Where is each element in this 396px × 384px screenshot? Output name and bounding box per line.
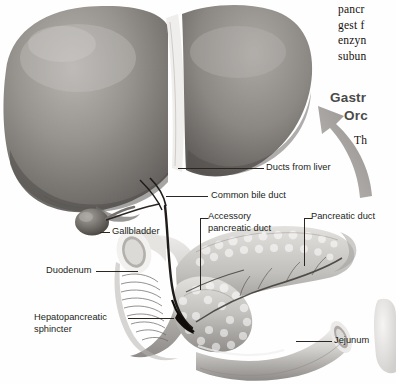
leader-pancreatic-duct-v <box>304 218 305 266</box>
label-hepato-line2: sphincter <box>34 324 72 334</box>
label-accessory-pancreatic-duct: Accessory pancreatic duct <box>208 211 271 234</box>
label-duodenum: Duodenum <box>46 265 91 277</box>
label-accessory-line1: Accessory <box>208 211 251 221</box>
body-text-line-1: pancr <box>338 2 365 18</box>
label-ducts-from-liver: Ducts from liver <box>266 162 331 174</box>
label-common-bile-duct: Common bile duct <box>211 190 286 202</box>
label-jejunum: Jejunum <box>334 335 369 347</box>
body-text-line-4: subun <box>338 49 366 65</box>
section-heading-line-1: Gastr <box>330 90 366 105</box>
label-hepato-line1: Hepatopancreatic <box>34 312 107 322</box>
label-pancreatic-duct: Pancreatic duct <box>311 211 375 223</box>
label-hepatopancreatic-sphincter: Hepatopancreatic sphincter <box>34 312 107 335</box>
figure-canvas: Ducts from liver Common bile duct Access… <box>0 0 396 384</box>
leader-duodenum <box>96 271 138 272</box>
body-text-line-3: enzyn <box>338 33 366 49</box>
body-text-continuation: Th <box>354 133 367 149</box>
leader-hepatopancreatic <box>128 318 174 319</box>
body-text-line-2: gest f <box>338 18 364 34</box>
leader-ducts-from-liver <box>178 168 264 169</box>
leader-jejunum <box>296 341 332 342</box>
leader-gallbladder <box>100 232 110 233</box>
label-accessory-line2: pancreatic duct <box>208 223 271 233</box>
leader-accessory-duct-v <box>200 218 201 290</box>
label-gallbladder: Gallbladder <box>112 226 160 238</box>
leader-common-bile-duct <box>166 196 208 197</box>
leader-accessory-duct-h <box>200 218 208 219</box>
section-heading-line-2: Orc <box>344 108 368 123</box>
